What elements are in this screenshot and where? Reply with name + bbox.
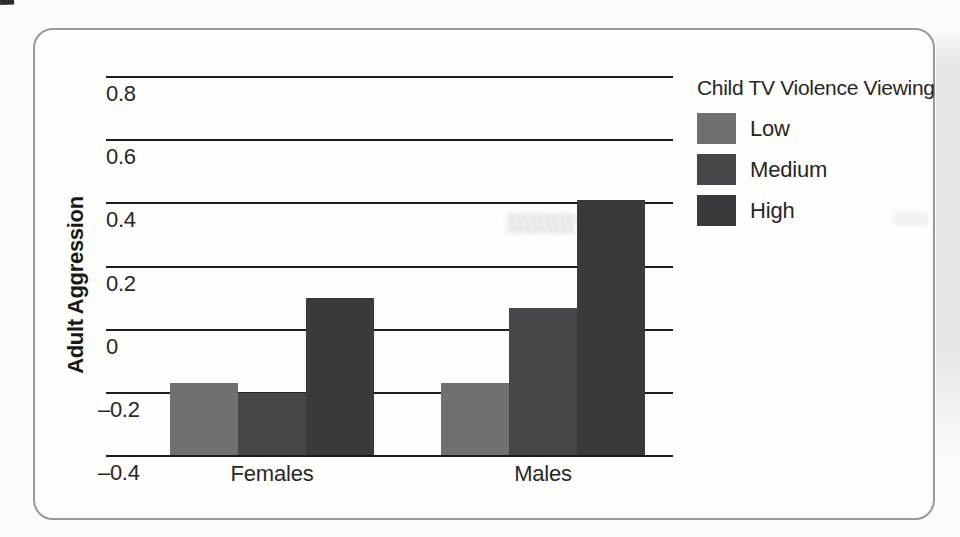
y-tick-0.4: 0.4 [106, 209, 136, 231]
legend-label-low: Low [750, 116, 790, 142]
y-tick-–0.2: –0.2 [98, 399, 140, 421]
plot-area: 0.80.60.40.20–0.2–0.4FemalesMales [106, 77, 673, 456]
bar-males-high [577, 200, 645, 456]
legend-item-medium: Medium [697, 154, 935, 185]
y-tick-0.8: 0.8 [106, 83, 136, 105]
legend-item-low: Low [697, 113, 935, 144]
x-axis-baseline [106, 455, 673, 458]
legend-title: Child TV Violence Viewing [697, 76, 935, 100]
bar-males-medium [509, 308, 577, 456]
bar-females-low [170, 383, 238, 456]
legend-swatch-medium [697, 154, 736, 185]
y-tick-0: 0 [106, 336, 118, 358]
y-axis-title: Adult Aggression [63, 196, 89, 374]
y-tick-0.2: 0.2 [106, 273, 136, 295]
y-tick-–0.4: –0.4 [98, 462, 140, 484]
x-category-males: Males [514, 462, 572, 486]
scan-artifact-top-left [0, 0, 14, 5]
print-bleed-artifact [506, 213, 576, 234]
print-bleed-artifact [893, 211, 929, 226]
x-category-females: Females [231, 462, 314, 486]
page-edge-shadow [936, 30, 960, 460]
legend-label-high: High [750, 198, 794, 224]
legend-swatch-high [697, 195, 736, 226]
gridline-0.8 [106, 76, 673, 78]
bar-females-high [306, 298, 374, 456]
y-tick-0.6: 0.6 [106, 146, 136, 168]
legend-items: LowMediumHigh [697, 113, 935, 226]
legend-label-medium: Medium [750, 157, 827, 183]
scanned-page: Adult Aggression 0.80.60.40.20–0.2–0.4Fe… [0, 0, 960, 537]
bar-females-medium [238, 393, 306, 456]
legend-swatch-low [697, 113, 736, 144]
bar-males-low [441, 383, 509, 456]
gridline-0.6 [106, 139, 673, 141]
